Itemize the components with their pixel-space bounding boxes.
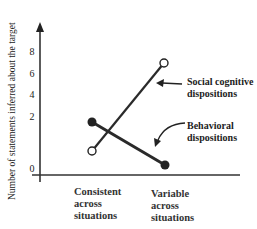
- y-axis-arrow-icon: [36, 22, 44, 32]
- behavioral-arrowhead-icon: [154, 138, 161, 147]
- annotation-line: dispositions: [187, 88, 253, 100]
- annotation-social-cognitive: Social cognitive dispositions: [187, 76, 253, 100]
- y-axis-label: Number of statements inferred about the …: [7, 22, 17, 200]
- x-category-line: Consistent: [74, 186, 144, 198]
- x-category-line: situations: [74, 210, 144, 222]
- x-category-line: across: [151, 200, 221, 212]
- behavioral-arrow: [158, 123, 185, 140]
- y-tick-6: 6: [27, 68, 37, 79]
- y-tick-8: 8: [27, 46, 37, 57]
- x-category-consistent: Consistent across situations: [74, 186, 144, 222]
- y-tick-0: 0: [27, 163, 37, 174]
- x-category-variable: Variable across situations: [151, 188, 221, 224]
- y-tick-4: 4: [27, 89, 37, 100]
- x-category-line: situations: [151, 212, 221, 224]
- annotation-line: Behavioral: [187, 120, 237, 132]
- x-category-line: Variable: [151, 188, 221, 200]
- annotation-line: dispositions: [187, 132, 237, 144]
- series-behavioral-line: [92, 122, 165, 165]
- behavioral-point-variable: [161, 161, 170, 170]
- social-cognitive-point-consistent: [88, 147, 96, 155]
- social-cognitive-arrow: [162, 83, 182, 84]
- social-cognitive-arrowhead-icon: [156, 79, 164, 87]
- annotation-behavioral: Behavioral dispositions: [187, 120, 237, 144]
- behavioral-point-consistent: [88, 118, 97, 127]
- annotation-line: Social cognitive: [187, 76, 253, 88]
- x-category-line: across: [74, 198, 144, 210]
- y-tick-2: 2: [27, 111, 37, 122]
- social-cognitive-point-variable: [160, 59, 168, 67]
- series-social-cognitive-line: [92, 63, 164, 151]
